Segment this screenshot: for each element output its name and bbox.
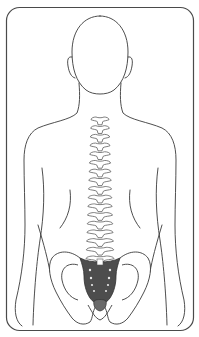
sacral-promontory bbox=[97, 259, 103, 265]
anatomy-illustration: Human back with spine and sacrum highlig… bbox=[0, 0, 199, 337]
